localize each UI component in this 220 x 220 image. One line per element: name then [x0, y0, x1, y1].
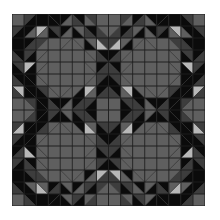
- triangle-patch: [193, 194, 205, 206]
- triangle-patch: [109, 110, 121, 122]
- triangle-patch: [96, 98, 108, 110]
- quilt-pattern: [12, 14, 205, 206]
- triangle-patch: [157, 158, 169, 170]
- triangle-patch: [193, 98, 205, 110]
- triangle-patch: [36, 194, 48, 206]
- triangle-patch: [48, 38, 60, 50]
- triangle-patch: [48, 146, 60, 158]
- triangle-patch: [60, 50, 72, 62]
- triangle-patch: [60, 74, 72, 86]
- triangle-patch: [133, 158, 145, 170]
- triangle-patch: [48, 62, 60, 74]
- triangle-patch: [133, 146, 145, 158]
- triangle-patch: [157, 38, 169, 50]
- quilt-grid: [12, 14, 205, 206]
- triangle-patch: [48, 158, 60, 170]
- triangle-patch: [109, 14, 121, 26]
- triangle-patch: [145, 74, 157, 86]
- triangle-patch: [72, 146, 84, 158]
- triangle-patch: [109, 98, 121, 110]
- triangle-patch: [72, 74, 84, 86]
- triangle-patch: [96, 194, 108, 206]
- triangle-patch: [157, 170, 169, 182]
- triangle-patch: [12, 110, 24, 122]
- triangle-patch: [133, 74, 145, 86]
- triangle-patch: [157, 74, 169, 86]
- triangle-patch: [133, 134, 145, 146]
- triangle-patch: [72, 134, 84, 146]
- triangle-patch: [145, 50, 157, 62]
- triangle-patch: [12, 38, 24, 50]
- triangle-patch: [12, 194, 24, 206]
- triangle-patch: [109, 194, 121, 206]
- triangle-patch: [48, 134, 60, 146]
- triangle-patch: [12, 14, 24, 26]
- triangle-patch: [145, 146, 157, 158]
- triangle-patch: [133, 50, 145, 62]
- triangle-patch: [145, 62, 157, 74]
- triangle-patch: [157, 50, 169, 62]
- triangle-patch: [96, 14, 108, 26]
- triangle-patch: [12, 98, 24, 110]
- triangle-patch: [193, 110, 205, 122]
- triangle-patch: [72, 50, 84, 62]
- triangle-patch: [169, 14, 181, 26]
- triangle-patch: [48, 74, 60, 86]
- triangle-patch: [193, 38, 205, 50]
- triangle-patch: [193, 14, 205, 26]
- triangle-patch: [145, 158, 157, 170]
- triangle-patch: [60, 158, 72, 170]
- triangle-patch: [48, 50, 60, 62]
- triangle-patch: [60, 146, 72, 158]
- triangle-patch: [133, 62, 145, 74]
- triangle-patch: [48, 170, 60, 182]
- triangle-patch: [72, 62, 84, 74]
- triangle-patch: [60, 134, 72, 146]
- triangle-patch: [157, 62, 169, 74]
- triangle-patch: [60, 62, 72, 74]
- triangle-patch: [169, 194, 181, 206]
- triangle-patch: [193, 170, 205, 182]
- triangle-patch: [157, 134, 169, 146]
- triangle-patch: [96, 110, 108, 122]
- triangle-patch: [72, 158, 84, 170]
- triangle-patch: [12, 170, 24, 182]
- triangle-patch: [157, 146, 169, 158]
- triangle-patch: [145, 134, 157, 146]
- triangle-patch: [36, 14, 48, 26]
